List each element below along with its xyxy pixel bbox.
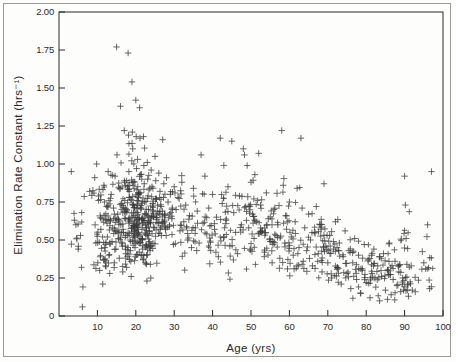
data-point-marker — [313, 203, 319, 209]
data-point-marker — [396, 261, 403, 268]
data-point-marker — [133, 133, 139, 139]
data-point-marker — [110, 181, 116, 187]
data-point-marker — [185, 235, 192, 242]
data-point-marker — [171, 223, 177, 229]
data-point-marker — [240, 146, 246, 152]
data-point-marker — [419, 248, 426, 255]
data-points-layer — [68, 44, 436, 310]
x-tick-label: 70 — [323, 321, 333, 332]
data-point-marker — [190, 185, 196, 191]
data-point-marker — [225, 184, 231, 190]
y-tick-label: 0.75 — [36, 196, 54, 207]
data-point-marker — [295, 251, 301, 257]
data-point-marker — [165, 199, 171, 205]
y-tick-label: 2.00 — [36, 6, 54, 17]
data-point-marker — [145, 176, 151, 182]
data-point-marker — [221, 162, 228, 169]
x-tick-label: 30 — [169, 321, 179, 332]
data-point-marker — [157, 201, 164, 208]
data-point-marker — [252, 171, 258, 177]
data-point-marker — [188, 244, 194, 250]
data-point-marker — [105, 168, 111, 174]
data-point-marker — [424, 233, 431, 240]
data-point-marker — [123, 264, 129, 270]
data-point-marker — [297, 185, 303, 191]
data-point-marker — [133, 165, 139, 171]
data-point-marker — [128, 273, 134, 279]
data-point-marker — [218, 238, 224, 244]
data-point-marker — [143, 261, 150, 268]
data-point-marker — [233, 247, 239, 253]
data-point-marker — [342, 228, 348, 234]
data-point-marker — [318, 216, 325, 223]
data-point-marker — [126, 256, 133, 263]
scatter-chart: 00.250.500.751.001.251.501.752.00 102030… — [0, 0, 456, 362]
data-point-marker — [125, 50, 131, 56]
data-point-marker — [134, 156, 141, 163]
data-point-marker — [281, 243, 288, 250]
y-tick-label: 1.75 — [36, 44, 54, 55]
data-point-marker — [176, 195, 183, 202]
data-point-marker — [129, 129, 135, 135]
data-point-marker — [175, 194, 181, 200]
data-point-marker — [251, 196, 257, 202]
data-point-marker — [299, 205, 305, 211]
data-point-marker — [244, 162, 250, 168]
data-point-marker — [286, 203, 292, 209]
data-point-marker — [221, 225, 227, 231]
data-point-marker — [343, 260, 350, 267]
data-point-marker — [198, 152, 204, 158]
data-point-marker — [204, 231, 210, 237]
data-point-marker — [122, 255, 129, 262]
data-point-marker — [229, 236, 236, 243]
data-point-marker — [366, 242, 372, 248]
data-point-marker — [305, 211, 311, 217]
data-point-marker — [113, 44, 119, 50]
data-point-marker — [404, 287, 411, 294]
data-point-marker — [300, 241, 306, 247]
data-point-marker — [68, 241, 75, 248]
data-point-marker — [392, 258, 398, 264]
x-tick-label: 50 — [246, 321, 256, 332]
data-point-marker — [255, 150, 261, 156]
data-point-marker — [126, 141, 132, 147]
data-point-marker — [94, 239, 101, 246]
data-point-marker — [229, 138, 235, 144]
data-point-marker — [111, 264, 118, 271]
data-point-marker — [90, 261, 97, 268]
data-point-marker — [362, 271, 368, 277]
data-point-marker — [321, 181, 327, 187]
data-point-marker — [182, 267, 188, 273]
data-point-marker — [93, 161, 99, 167]
data-point-marker — [107, 252, 112, 257]
x-axis-ticks — [97, 310, 443, 316]
data-point-marker — [120, 269, 126, 275]
data-point-marker — [126, 168, 132, 174]
data-point-marker — [313, 244, 320, 251]
data-point-marker — [129, 79, 135, 85]
data-point-marker — [235, 203, 241, 209]
data-point-marker — [286, 272, 293, 279]
data-point-marker — [79, 264, 85, 270]
data-point-marker — [193, 247, 200, 254]
data-point-marker — [221, 242, 228, 249]
data-point-marker — [271, 206, 277, 212]
y-tick-label: 1.00 — [36, 158, 54, 169]
data-point-marker — [419, 266, 425, 272]
data-point-marker — [144, 159, 150, 165]
data-point-marker — [236, 207, 241, 212]
data-point-marker — [128, 258, 134, 264]
data-point-marker — [137, 135, 143, 141]
data-point-marker — [290, 252, 296, 258]
data-point-marker — [261, 254, 267, 260]
data-point-marker — [356, 238, 362, 244]
data-point-marker — [106, 270, 112, 276]
y-tick-label: 1.50 — [36, 82, 54, 93]
data-point-marker — [401, 244, 408, 251]
data-point-marker — [371, 260, 377, 266]
data-point-marker — [378, 267, 385, 274]
data-point-marker — [397, 269, 404, 276]
data-point-marker — [100, 281, 106, 287]
data-point-marker — [300, 258, 306, 264]
data-point-marker — [344, 270, 350, 276]
